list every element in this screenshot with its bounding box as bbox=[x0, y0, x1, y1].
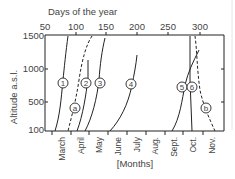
y-tick-label: 500 bbox=[28, 96, 44, 107]
marker-3: 3 bbox=[95, 78, 105, 88]
svg-text:1: 1 bbox=[61, 79, 66, 88]
month-label: April bbox=[76, 137, 86, 154]
top-tick-label: 300 bbox=[192, 21, 208, 32]
curve-markers: 1 2 3 4 5 6 a b bbox=[58, 78, 211, 113]
top-tick-label: 200 bbox=[129, 21, 145, 32]
marker-4: 4 bbox=[126, 79, 136, 89]
month-label: March bbox=[57, 137, 67, 161]
marker-6: 6 bbox=[187, 82, 197, 92]
top-tick-label: 100 bbox=[68, 21, 84, 32]
marker-a: a bbox=[70, 103, 80, 113]
top-tick-label: 150 bbox=[98, 21, 114, 32]
month-label: July bbox=[132, 136, 142, 152]
y-tick-label: 1000 bbox=[23, 63, 44, 74]
marker-2: 2 bbox=[81, 78, 91, 88]
month-label: Aug. bbox=[150, 137, 160, 155]
y-axis-title: Altitude a.s.l. bbox=[8, 70, 19, 124]
svg-text:b: b bbox=[204, 104, 209, 113]
top-axis: 50 100 150 200 250 300 bbox=[40, 21, 208, 32]
svg-text:5: 5 bbox=[180, 83, 185, 92]
month-label: June bbox=[113, 137, 123, 156]
month-label: Nov. bbox=[207, 137, 217, 154]
top-tick-label: 250 bbox=[160, 21, 176, 32]
marker-5: 5 bbox=[177, 82, 187, 92]
svg-text:a: a bbox=[73, 104, 78, 113]
top-axis-title: Days of the year bbox=[48, 6, 117, 17]
month-labels: March April May June July Aug. Sept. Oct… bbox=[57, 136, 217, 160]
curve-2 bbox=[77, 60, 88, 131]
svg-text:2: 2 bbox=[84, 79, 89, 88]
curve-b bbox=[195, 36, 215, 131]
svg-text:6: 6 bbox=[190, 83, 195, 92]
marker-b: b bbox=[201, 103, 211, 113]
y-tick-label: 1500 bbox=[23, 30, 44, 41]
y-axis: 1500 1000 500 100 bbox=[23, 30, 44, 135]
x-axis-title: [Months] bbox=[117, 158, 153, 169]
curve-4 bbox=[110, 55, 137, 131]
y-tick-label: 100 bbox=[28, 124, 44, 135]
marker-1: 1 bbox=[58, 78, 68, 88]
month-label: Oct. bbox=[188, 137, 198, 153]
svg-text:3: 3 bbox=[98, 79, 103, 88]
month-label: Sept. bbox=[169, 137, 179, 157]
svg-text:4: 4 bbox=[129, 80, 134, 89]
phenology-chart: Days of the year 50 100 150 200 250 300 bbox=[0, 0, 235, 179]
month-label: May bbox=[94, 136, 104, 153]
